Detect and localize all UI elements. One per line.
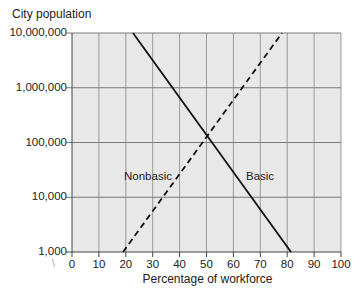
x-tick-label: 100 [326,258,356,270]
x-tick-label: 20 [111,258,141,270]
x-tick-label: 90 [299,258,329,270]
stray-mark: \ [52,258,55,269]
x-tick-label: 30 [138,258,168,270]
x-tick-label: 0 [57,258,87,270]
basic-series-label: Basic [246,170,274,182]
x-axis-title: Percentage of workforce [0,272,363,286]
x-tick-label: 40 [165,258,195,270]
y-tick-label: 10,000,000 [9,26,67,38]
x-tick-label: 70 [245,258,275,270]
nonbasic-series-label: Nonbasic [124,170,172,182]
y-tick-label: 10,000 [32,190,67,202]
x-tick-label: 10 [84,258,114,270]
y-tick-label: 1,000,000 [16,81,67,93]
y-tick-label: 100,000 [25,136,67,148]
y-tick-label: 1,000 [38,245,67,257]
x-tick-label: 50 [192,258,222,270]
x-tick-label: 80 [272,258,302,270]
x-tick-label: 60 [218,258,248,270]
